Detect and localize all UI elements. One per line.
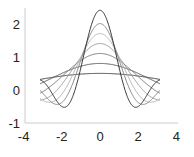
y-tick-label: 1	[13, 50, 20, 65]
x-tick-label: 0	[96, 129, 103, 144]
curve-k-1-4	[40, 44, 160, 101]
chart: -1012 -4-2024	[0, 0, 194, 157]
curve-k-2-4	[40, 10, 160, 107]
y-tick-label: 0	[13, 83, 20, 98]
x-tick-labels: -4-2024	[18, 129, 180, 144]
x-tick-label: -4	[18, 129, 30, 144]
x-tick-label: -2	[56, 129, 68, 144]
curve-group	[40, 10, 160, 107]
curve-k-2-0	[40, 24, 160, 105]
curve-k-0-5	[40, 73, 160, 79]
y-tick-label: 2	[13, 17, 20, 32]
x-tick-label: 4	[173, 129, 180, 144]
y-tick-labels: -1012	[8, 17, 20, 132]
x-tick-label: 2	[135, 129, 142, 144]
